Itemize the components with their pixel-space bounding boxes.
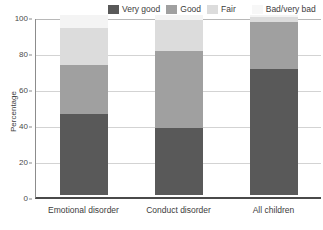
bar-slot-emotional-disorder [37, 19, 132, 195]
y-tickmark-20 [29, 163, 32, 164]
segment-very-good[interactable] [250, 69, 298, 195]
plot-wrap [35, 19, 321, 199]
bar-emotional-disorder[interactable] [60, 15, 108, 195]
legend-label-bad-very-bad: Bad/very bad [266, 4, 316, 14]
plot-area [35, 19, 321, 199]
segment-very-good[interactable] [155, 128, 203, 195]
bar-slot-all-children [226, 19, 321, 195]
stacked-bar-chart: Very good Good Fair Bad/very bad Percent… [0, 0, 323, 230]
bar-slot-conduct-disorder [132, 19, 227, 195]
segment-fair[interactable] [155, 20, 203, 51]
x-tick-label-emotional-disorder: Emotional disorder [36, 205, 131, 215]
x-tick-label-conduct-disorder: Conduct disorder [131, 205, 226, 215]
segment-bad-very-bad[interactable] [60, 15, 108, 28]
bar-series-group [37, 19, 321, 195]
y-tickmark-0 [29, 199, 32, 200]
x-axis: Emotional disorder Conduct disorder All … [36, 205, 321, 215]
legend-swatch-good [166, 5, 177, 14]
segment-good[interactable] [155, 51, 203, 128]
y-tick-label-80: 80 [19, 51, 28, 59]
legend-swatch-very-good [108, 5, 119, 14]
legend-swatch-fair [207, 5, 218, 14]
segment-fair[interactable] [60, 28, 108, 66]
y-tick-label-40: 40 [19, 123, 28, 131]
y-axis: Percentage 100 80 60 40 20 0 [6, 19, 32, 199]
segment-good[interactable] [250, 22, 298, 69]
segment-very-good[interactable] [60, 114, 108, 195]
y-tickmark-40 [29, 127, 32, 128]
legend-label-fair: Fair [221, 4, 236, 14]
chart-legend: Very good Good Fair Bad/very bad [108, 2, 323, 16]
y-tick-label-60: 60 [19, 87, 28, 95]
x-tick-label-all-children: All children [226, 205, 321, 215]
y-tick-label-20: 20 [19, 159, 28, 167]
legend-item-very-good: Very good [108, 4, 160, 14]
y-tick-label-0: 0 [24, 195, 28, 203]
y-tickmark-80 [29, 55, 32, 56]
legend-item-fair: Fair [207, 4, 236, 14]
legend-label-very-good: Very good [122, 4, 160, 14]
y-tick-label-100: 100 [15, 15, 28, 23]
legend-item-bad-very-bad: Bad/very bad [252, 4, 316, 14]
legend-label-good: Good [180, 4, 201, 14]
segment-good[interactable] [60, 65, 108, 114]
y-tickmark-100 [29, 19, 32, 20]
legend-swatch-bad-very-bad [252, 5, 263, 14]
legend-item-good: Good [166, 4, 201, 14]
y-tickmark-60 [29, 91, 32, 92]
bar-conduct-disorder[interactable] [155, 15, 203, 195]
y-axis-title: Percentage [9, 91, 18, 132]
bar-all-children[interactable] [250, 15, 298, 195]
